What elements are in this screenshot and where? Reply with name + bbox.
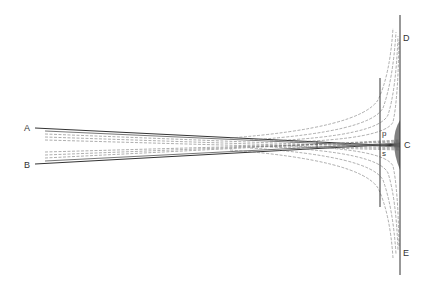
- label-e: E: [403, 248, 409, 258]
- ray-diagram: A B C D E p s: [0, 0, 433, 284]
- label-c: C: [404, 140, 411, 150]
- label-d: D: [403, 33, 410, 43]
- label-b: B: [24, 160, 30, 170]
- caustic: [394, 120, 400, 170]
- label-a: A: [24, 123, 30, 133]
- upper-curves: [230, 28, 399, 142]
- ray-a: [35, 128, 400, 146]
- label-p: p: [382, 129, 387, 138]
- lower-curves: [230, 146, 399, 258]
- label-s: s: [382, 149, 386, 158]
